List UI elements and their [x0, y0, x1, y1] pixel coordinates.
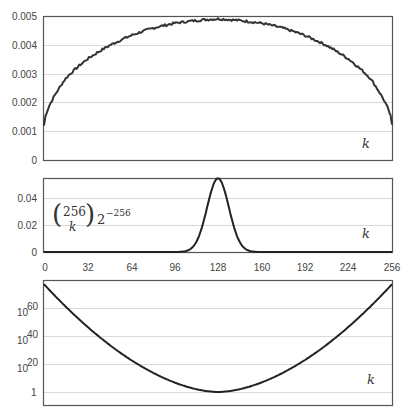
middle-gridlines — [43, 199, 392, 226]
x-axis-label-k: k — [362, 226, 370, 241]
ytick: 0.02 — [18, 220, 38, 231]
top-y-ticks: 0.005 0.004 0.003 0.002 0.001 0 — [12, 11, 37, 166]
ytick: 0.004 — [12, 40, 37, 51]
formula-k: k — [69, 220, 76, 234]
ytick: 0 — [31, 247, 37, 258]
chart-figure: 0.005 0.004 0.003 0.002 0.001 0 k 0.04 0… — [0, 0, 410, 418]
top-plot-frame — [44, 17, 393, 161]
ytick-exp: 60 — [27, 301, 39, 312]
top-data-line — [44, 18, 392, 125]
xtick: 256 — [384, 262, 401, 273]
xtick: 0 — [42, 262, 48, 273]
binomial-formula-annotation: ( 256 k ) 2 −256 — [52, 199, 131, 234]
ytick-exp: 40 — [27, 329, 39, 340]
top-gridlines — [43, 46, 392, 132]
xtick: 64 — [126, 262, 138, 273]
bottom-y-ticks: 10 60 10 40 10 20 1 — [17, 301, 39, 398]
formula-exponent: −256 — [106, 208, 131, 218]
xtick: 32 — [82, 262, 94, 273]
xtick: 192 — [297, 262, 314, 273]
bottom-panel: 10 60 10 40 10 20 1 k — [17, 281, 393, 406]
formula-n: 256 — [63, 205, 86, 219]
formula-base: 2 — [97, 212, 105, 227]
bottom-plot-frame — [44, 281, 393, 406]
xtick: 128 — [210, 262, 227, 273]
x-axis-label-k: k — [367, 372, 375, 387]
middle-plot-frame — [44, 179, 393, 253]
bottom-gridlines — [43, 309, 392, 393]
bottom-data-line — [44, 284, 392, 392]
middle-y-ticks: 0.04 0.02 0 — [18, 193, 38, 258]
ytick: 1 — [31, 387, 37, 398]
ytick: 0.001 — [12, 126, 37, 137]
ytick: 0.04 — [18, 193, 38, 204]
ytick: 0 — [31, 155, 37, 166]
xtick: 160 — [254, 262, 271, 273]
x-axis-label-k: k — [362, 136, 370, 151]
left-paren: ( — [52, 199, 62, 229]
ytick: 0.002 — [12, 97, 37, 108]
right-paren: ) — [85, 199, 95, 229]
x-axis-ticks: 0 32 64 96 128 160 192 224 256 — [42, 262, 401, 273]
ytick: 0.003 — [12, 69, 37, 80]
xtick: 224 — [340, 262, 357, 273]
top-panel: 0.005 0.004 0.003 0.002 0.001 0 k — [12, 11, 393, 166]
middle-panel: 0.04 0.02 0 k ( 256 k ) 2 −256 — [18, 178, 393, 258]
ytick-exp: 20 — [27, 357, 39, 368]
xtick: 96 — [169, 262, 181, 273]
ytick: 0.005 — [12, 11, 37, 22]
